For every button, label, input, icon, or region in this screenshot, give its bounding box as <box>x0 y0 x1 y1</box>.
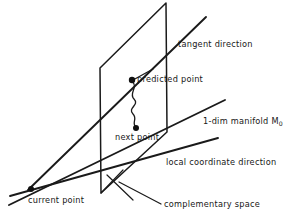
figure-canvas <box>0 0 304 224</box>
complementary-space-marker-left <box>101 170 123 193</box>
predicted-point-label: predicted point <box>137 75 203 83</box>
local-coordinate-direction-line <box>10 138 218 196</box>
predicted-point-dot <box>129 77 135 83</box>
current-point-dot <box>28 186 34 192</box>
manifold-label-subscript: 0 <box>279 120 283 127</box>
local-coordinate-direction-label: local coordinate direction <box>166 158 276 166</box>
manifold-label-text: 1-dim manifold M <box>203 116 279 126</box>
manifold-label: 1-dim manifold M0 <box>203 117 283 125</box>
next-point-label: next point <box>115 133 159 141</box>
tangent-direction-label: tangent direction <box>178 40 253 48</box>
current-point-label: current point <box>28 196 84 204</box>
manifold-line <box>9 100 225 205</box>
manifold-continuation-figure: tangent direction predicted point 1-dim … <box>0 0 304 224</box>
next-point-dot <box>133 125 139 131</box>
complementary-space-label: complementary space <box>164 200 260 208</box>
